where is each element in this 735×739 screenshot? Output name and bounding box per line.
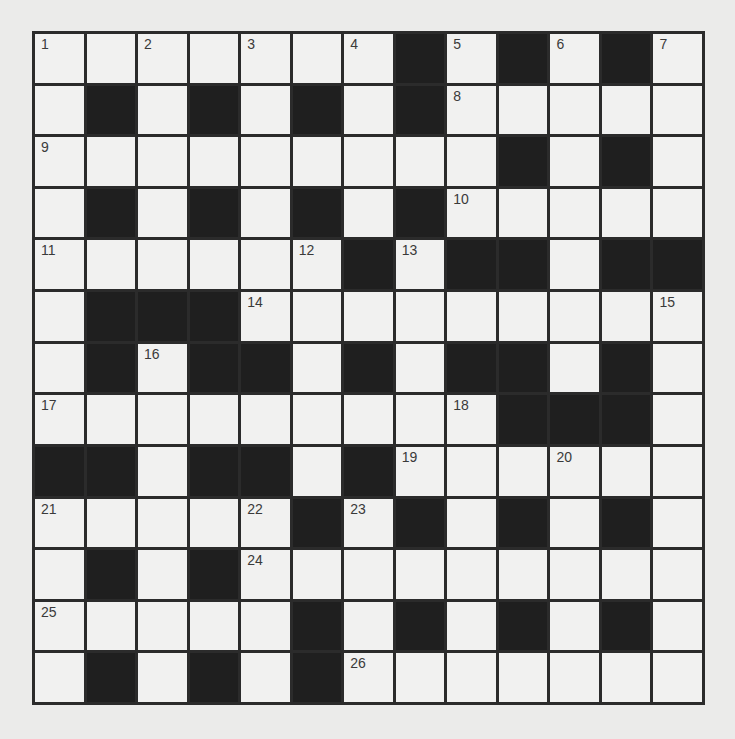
- crossword-cell[interactable]: [241, 395, 290, 444]
- crossword-cell[interactable]: [653, 550, 702, 599]
- crossword-cell[interactable]: 8: [447, 86, 496, 135]
- crossword-cell[interactable]: [396, 292, 445, 341]
- crossword-cell[interactable]: [190, 34, 239, 83]
- crossword-cell[interactable]: 21: [35, 499, 84, 548]
- crossword-cell[interactable]: [293, 447, 342, 496]
- crossword-cell[interactable]: 5: [447, 34, 496, 83]
- crossword-cell[interactable]: [35, 653, 84, 702]
- crossword-cell[interactable]: [550, 602, 599, 651]
- crossword-cell[interactable]: [602, 86, 651, 135]
- crossword-cell[interactable]: [447, 550, 496, 599]
- crossword-cell[interactable]: [138, 550, 187, 599]
- crossword-cell[interactable]: [87, 602, 136, 651]
- crossword-cell[interactable]: [602, 447, 651, 496]
- crossword-cell[interactable]: [87, 395, 136, 444]
- crossword-cell[interactable]: [550, 240, 599, 289]
- crossword-cell[interactable]: [499, 447, 548, 496]
- crossword-cell[interactable]: [396, 550, 445, 599]
- crossword-cell[interactable]: 6: [550, 34, 599, 83]
- crossword-cell[interactable]: [138, 653, 187, 702]
- crossword-cell[interactable]: 16: [138, 344, 187, 393]
- crossword-cell[interactable]: [138, 189, 187, 238]
- crossword-cell[interactable]: [550, 189, 599, 238]
- crossword-cell[interactable]: [293, 344, 342, 393]
- crossword-cell[interactable]: [344, 137, 393, 186]
- crossword-cell[interactable]: [138, 602, 187, 651]
- crossword-cell[interactable]: [602, 550, 651, 599]
- crossword-cell[interactable]: [138, 86, 187, 135]
- crossword-cell[interactable]: [87, 240, 136, 289]
- crossword-cell[interactable]: [138, 447, 187, 496]
- crossword-cell[interactable]: [241, 653, 290, 702]
- crossword-cell[interactable]: [190, 602, 239, 651]
- crossword-cell[interactable]: [602, 189, 651, 238]
- crossword-cell[interactable]: 3: [241, 34, 290, 83]
- crossword-cell[interactable]: [447, 499, 496, 548]
- crossword-cell[interactable]: [344, 189, 393, 238]
- crossword-cell[interactable]: [241, 86, 290, 135]
- crossword-cell[interactable]: 20: [550, 447, 599, 496]
- crossword-cell[interactable]: [396, 137, 445, 186]
- crossword-cell[interactable]: [241, 602, 290, 651]
- crossword-cell[interactable]: [293, 34, 342, 83]
- crossword-cell[interactable]: [138, 240, 187, 289]
- crossword-cell[interactable]: [293, 137, 342, 186]
- crossword-cell[interactable]: [653, 344, 702, 393]
- crossword-cell[interactable]: [396, 395, 445, 444]
- crossword-cell[interactable]: [653, 86, 702, 135]
- crossword-cell[interactable]: 1: [35, 34, 84, 83]
- crossword-cell[interactable]: [653, 137, 702, 186]
- crossword-cell[interactable]: 12: [293, 240, 342, 289]
- crossword-cell[interactable]: [499, 550, 548, 599]
- crossword-cell[interactable]: [653, 499, 702, 548]
- crossword-cell[interactable]: [344, 86, 393, 135]
- crossword-cell[interactable]: [344, 395, 393, 444]
- crossword-cell[interactable]: 7: [653, 34, 702, 83]
- crossword-cell[interactable]: [396, 344, 445, 393]
- crossword-cell[interactable]: [550, 499, 599, 548]
- crossword-cell[interactable]: [190, 395, 239, 444]
- crossword-cell[interactable]: [241, 189, 290, 238]
- crossword-cell[interactable]: [602, 653, 651, 702]
- crossword-cell[interactable]: [293, 550, 342, 599]
- crossword-cell[interactable]: [138, 395, 187, 444]
- crossword-cell[interactable]: 24: [241, 550, 290, 599]
- crossword-cell[interactable]: [241, 240, 290, 289]
- crossword-cell[interactable]: [35, 189, 84, 238]
- crossword-cell[interactable]: [190, 137, 239, 186]
- crossword-cell[interactable]: [550, 137, 599, 186]
- crossword-cell[interactable]: 19: [396, 447, 445, 496]
- crossword-cell[interactable]: [35, 550, 84, 599]
- crossword-cell[interactable]: 10: [447, 189, 496, 238]
- crossword-cell[interactable]: 11: [35, 240, 84, 289]
- crossword-cell[interactable]: [447, 292, 496, 341]
- crossword-cell[interactable]: [293, 395, 342, 444]
- crossword-cell[interactable]: [344, 602, 393, 651]
- crossword-cell[interactable]: [396, 653, 445, 702]
- crossword-cell[interactable]: [550, 653, 599, 702]
- crossword-cell[interactable]: [35, 292, 84, 341]
- crossword-cell[interactable]: [653, 189, 702, 238]
- crossword-cell[interactable]: [550, 550, 599, 599]
- crossword-cell[interactable]: [190, 240, 239, 289]
- crossword-cell[interactable]: 18: [447, 395, 496, 444]
- crossword-cell[interactable]: 22: [241, 499, 290, 548]
- crossword-cell[interactable]: 14: [241, 292, 290, 341]
- crossword-cell[interactable]: [293, 292, 342, 341]
- crossword-cell[interactable]: [344, 292, 393, 341]
- crossword-cell[interactable]: [653, 653, 702, 702]
- crossword-cell[interactable]: [499, 86, 548, 135]
- crossword-cell[interactable]: [35, 86, 84, 135]
- crossword-cell[interactable]: [602, 292, 651, 341]
- crossword-cell[interactable]: [653, 447, 702, 496]
- crossword-cell[interactable]: [550, 344, 599, 393]
- crossword-cell[interactable]: [447, 602, 496, 651]
- crossword-cell[interactable]: 17: [35, 395, 84, 444]
- crossword-cell[interactable]: 9: [35, 137, 84, 186]
- crossword-cell[interactable]: 23: [344, 499, 393, 548]
- crossword-cell[interactable]: [241, 137, 290, 186]
- crossword-cell[interactable]: 13: [396, 240, 445, 289]
- crossword-cell[interactable]: [499, 292, 548, 341]
- crossword-cell[interactable]: [35, 344, 84, 393]
- crossword-cell[interactable]: 15: [653, 292, 702, 341]
